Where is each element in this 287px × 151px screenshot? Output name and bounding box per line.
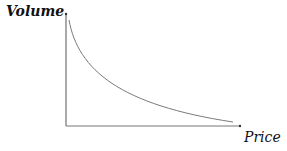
y-axis-label: Volume <box>6 3 64 19</box>
y-axis-arrow <box>65 13 67 15</box>
x-axis-label: Price <box>244 129 281 145</box>
demand-curve <box>69 20 233 122</box>
x-axis-arrow <box>239 125 241 127</box>
